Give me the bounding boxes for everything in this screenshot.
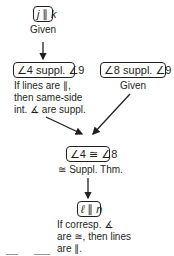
reason-given-2: Given <box>117 80 149 92</box>
reason-corresp-line1: If corresp. ∡ <box>57 219 113 231</box>
reason-same-side-int-line3: int. ∡ are suppl. <box>14 104 86 116</box>
cropped-mark <box>34 254 50 255</box>
reason-given-1: Given <box>27 24 59 36</box>
reason-same-side-int-line1: If lines are ∥, <box>14 80 71 92</box>
statement-text: ∠4 ≅ ∠8 <box>70 147 106 161</box>
statement-text: ∠4 suppl. ∠9 <box>17 63 71 77</box>
statement-box-angle8-suppl-angle9: ∠8 suppl. ∠9 <box>100 62 166 78</box>
statement-text: j ∥ k <box>37 7 49 21</box>
cropped-mark <box>6 254 18 255</box>
statement-box-angle4-congruent-angle8: ∠4 ≅ ∠8 <box>66 146 110 162</box>
statement-box-j-parallel-k: j ∥ k <box>33 6 53 22</box>
statement-box-l-parallel-n: ℓ ∥ n <box>77 201 101 217</box>
statement-text: ℓ ∥ n <box>81 202 97 216</box>
reason-congruent-suppl-thm: ≅ Suppl. Thm. <box>58 164 118 176</box>
statement-box-angle4-suppl-angle9: ∠4 suppl. ∠9 <box>13 62 75 78</box>
reason-same-side-int-line2: then same-side <box>14 92 82 104</box>
reason-corresp-line2: are ≅, then lines <box>57 231 131 243</box>
statement-text: ∠8 suppl. ∠9 <box>104 63 162 77</box>
arrow-n3-n4 <box>93 94 130 134</box>
reason-corresp-line3: are ∥. <box>57 243 82 255</box>
flow-arrows <box>0 0 174 256</box>
arrow-n2-n4 <box>46 117 82 134</box>
